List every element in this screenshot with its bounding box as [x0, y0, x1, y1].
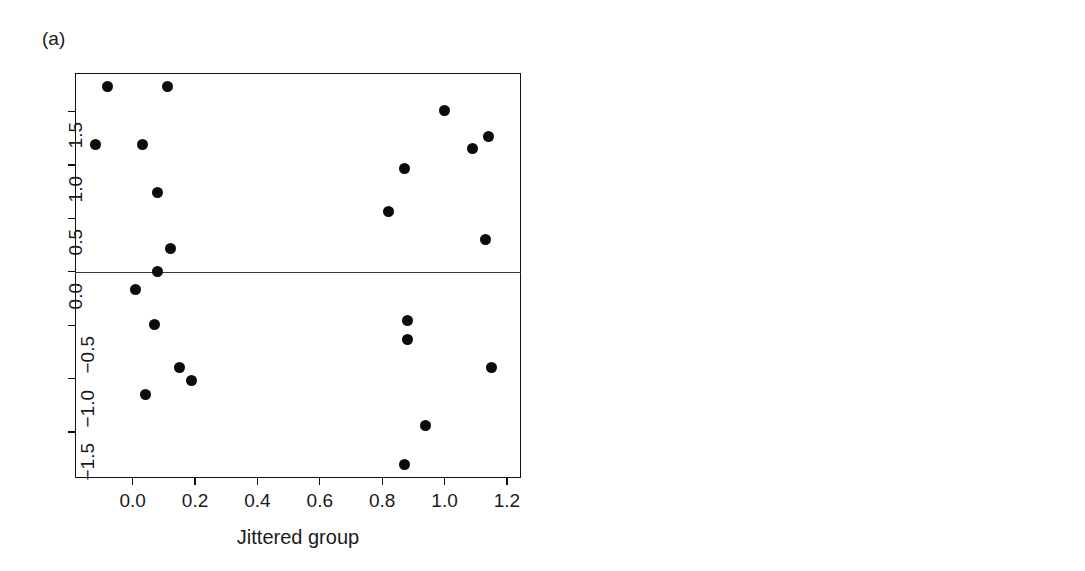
data-point — [90, 139, 101, 150]
data-point — [402, 334, 413, 345]
panel-a-plot-box — [75, 73, 521, 478]
y-tick-label: 0.5 — [65, 229, 87, 255]
data-point — [149, 319, 160, 330]
panel-a-label: (a) — [42, 28, 65, 50]
data-point — [162, 81, 173, 92]
panel-a-zero-reference-line — [75, 272, 521, 273]
data-point — [399, 459, 410, 470]
data-point — [480, 234, 491, 245]
data-point — [137, 139, 148, 150]
x-tick-label: 0.2 — [182, 490, 208, 512]
panel-b: (b) 1.00.50.0−0.5−1.0−1.5 −0.20.00.20.40… — [540, 0, 1085, 571]
x-tick-mark — [382, 478, 383, 485]
y-tick-label: −1.5 — [77, 443, 99, 481]
panel-a-x-axis-title: Jittered group — [237, 526, 359, 549]
x-tick-label: 0.0 — [119, 490, 145, 512]
x-tick-mark — [132, 478, 133, 485]
y-tick-label: −1.0 — [77, 390, 99, 428]
figure-scatter-panels: (a) 1.51.00.50.0−0.5−1.0−1.5 0.00.20.40.… — [0, 0, 1085, 571]
x-tick-mark — [257, 478, 258, 485]
y-tick-mark — [68, 378, 75, 379]
y-tick-mark — [68, 164, 75, 165]
x-tick-label: 1.0 — [431, 490, 457, 512]
y-tick-label: 0.0 — [65, 283, 87, 309]
x-tick-label: 0.8 — [369, 490, 395, 512]
y-tick-mark — [68, 218, 75, 219]
y-tick-mark — [68, 431, 75, 432]
y-tick-mark — [68, 271, 75, 272]
x-tick-mark — [194, 478, 195, 485]
x-tick-label: 1.2 — [494, 490, 520, 512]
data-point — [399, 163, 410, 174]
x-tick-label: 0.6 — [307, 490, 333, 512]
y-tick-mark — [68, 325, 75, 326]
data-point — [140, 389, 151, 400]
y-tick-label: −0.5 — [77, 336, 99, 374]
y-tick-label: 1.5 — [65, 122, 87, 148]
y-tick-label: 1.0 — [65, 176, 87, 202]
x-tick-mark — [444, 478, 445, 485]
data-point — [483, 131, 494, 142]
y-tick-mark — [68, 111, 75, 112]
x-tick-mark — [506, 478, 507, 485]
x-tick-label: 0.4 — [244, 490, 270, 512]
panel-a: (a) 1.51.00.50.0−0.5−1.0−1.5 0.00.20.40.… — [0, 0, 545, 571]
data-point — [165, 243, 176, 254]
x-tick-mark — [319, 478, 320, 485]
data-point — [439, 105, 450, 116]
